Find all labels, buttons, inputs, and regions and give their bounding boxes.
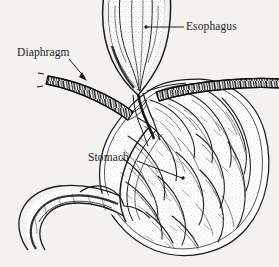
anatomy-illustration — [0, 0, 279, 267]
label-stomach: Stomach — [88, 152, 129, 164]
stomach-anatomy-figure: Esophagus Diaphragm Stomach — [0, 0, 279, 267]
label-diaphragm: Diaphragm — [17, 47, 70, 59]
label-esophagus: Esophagus — [186, 21, 237, 33]
diaphragm-band-left — [37, 73, 133, 120]
diaphragm-leader — [69, 59, 87, 81]
esophagus — [103, 0, 171, 95]
